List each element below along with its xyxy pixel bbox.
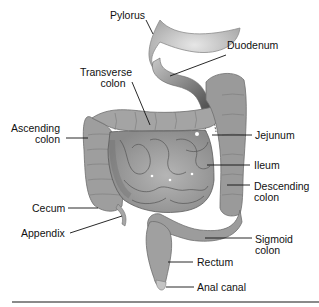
label-descending-colon: Descending colon bbox=[254, 181, 309, 203]
label-rectum: Rectum bbox=[197, 257, 233, 268]
label-transverse-colon: Transverse colon bbox=[76, 67, 136, 89]
label-jejunum: Jejunum bbox=[255, 130, 295, 141]
label-sigmoid-colon: Sigmoid colon bbox=[255, 234, 293, 256]
anal-canal bbox=[156, 280, 166, 290]
bottom-divider bbox=[12, 301, 319, 303]
label-duodenum: Duodenum bbox=[227, 40, 278, 51]
label-ileum: Ileum bbox=[254, 160, 280, 171]
label-anal-canal: Anal canal bbox=[197, 282, 246, 293]
rectum bbox=[146, 221, 172, 290]
label-appendix: Appendix bbox=[21, 228, 65, 239]
label-ascending-colon: Ascending colon bbox=[6, 123, 60, 145]
label-cecum: Cecum bbox=[32, 203, 65, 214]
label-pylorus: Pylorus bbox=[110, 10, 145, 21]
appendix bbox=[116, 204, 126, 226]
small-intestine bbox=[108, 130, 214, 213]
intestine-diagram: Pylorus Duodenum Transverse colon Ascend… bbox=[0, 0, 319, 307]
